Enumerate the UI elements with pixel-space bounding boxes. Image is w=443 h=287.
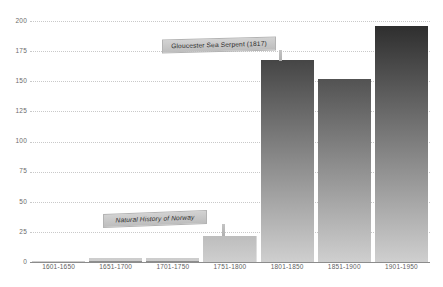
x-tick-label: 1601-1650 (30, 264, 87, 271)
annotation-label: Gloucester Sea Serpent (1817) (166, 40, 272, 50)
annotation-pointer (279, 50, 282, 61)
x-tick-label: 1801-1850 (259, 264, 316, 271)
y-tick-label: 0 (3, 259, 27, 266)
bar-chart: 0255075100125150175200 1601-16501651-170… (0, 0, 443, 287)
annotation-pointer (222, 224, 225, 236)
x-tick-label: 1851-1900 (316, 264, 373, 271)
bar (203, 236, 256, 263)
bar (89, 258, 142, 262)
x-tick-label: 1901-1950 (373, 264, 430, 271)
y-axis: 0255075100125150175200 (0, 21, 27, 262)
y-tick-label: 150 (3, 78, 27, 85)
y-tick-label: 25 (3, 229, 27, 236)
y-tick-label: 100 (3, 138, 27, 145)
x-axis: 1601-16501651-17001701-17501751-18001801… (30, 264, 430, 278)
plot-area (30, 21, 430, 262)
x-tick-label: 1651-1700 (87, 264, 144, 271)
annotation-box: Gloucester Sea Serpent (1817) (162, 36, 276, 53)
gridline-200 (30, 21, 430, 22)
y-tick-label: 50 (3, 199, 27, 206)
x-tick-label: 1701-1750 (144, 264, 201, 271)
bar (375, 26, 428, 262)
annotation-label: Natural History of Norway (111, 214, 200, 224)
y-tick-label: 175 (3, 48, 27, 55)
annotation-box: Natural History of Norway (103, 210, 207, 228)
x-tick-label: 1751-1800 (201, 264, 258, 271)
bar (261, 60, 314, 262)
annotation-callout: Natural History of Norway (103, 212, 207, 226)
y-tick-label: 125 (3, 108, 27, 115)
bar (146, 258, 199, 262)
bar (318, 79, 371, 262)
bar (32, 261, 85, 262)
y-tick-label: 75 (3, 168, 27, 175)
annotation-callout: Gloucester Sea Serpent (1817) (162, 38, 276, 52)
y-tick-label: 200 (3, 18, 27, 25)
